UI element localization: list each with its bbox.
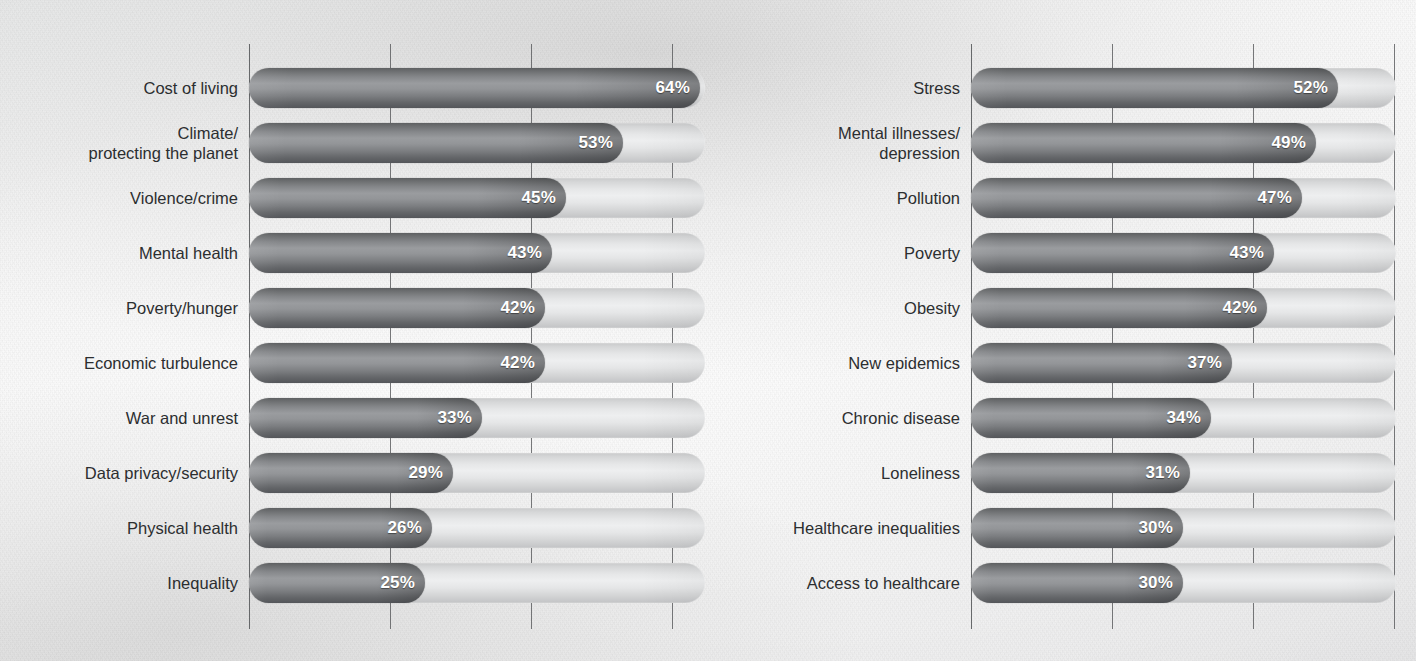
- bar-row: 30%: [971, 508, 1396, 548]
- category-label: Climate/ protecting the planet: [18, 123, 238, 163]
- category-label: Mental illnesses/ depression: [730, 123, 960, 163]
- bar-value-label: 64%: [648, 68, 690, 108]
- bar-row: 45%: [249, 178, 705, 218]
- bar-value-label: 47%: [1250, 178, 1292, 218]
- category-label: Physical health: [18, 518, 238, 538]
- bar-row: 64%: [249, 68, 705, 108]
- bar-value-label: 25%: [373, 563, 415, 603]
- bar-row: 42%: [249, 288, 705, 328]
- category-label: Healthcare inequalities: [730, 518, 960, 538]
- category-label: Poverty/hunger: [18, 298, 238, 318]
- bar-row: 34%: [971, 398, 1396, 438]
- bar-value-label: 26%: [380, 508, 422, 548]
- bar-value-label: 49%: [1264, 123, 1306, 163]
- bar-value-label: 29%: [401, 453, 443, 493]
- category-label: Data privacy/security: [18, 463, 238, 483]
- bar-fill: [249, 123, 623, 163]
- bar-value-label: 43%: [1222, 233, 1264, 273]
- bar-value-label: 42%: [493, 343, 535, 383]
- bar-row: 25%: [249, 563, 705, 603]
- category-label: Stress: [730, 78, 960, 98]
- bar-row: 42%: [971, 288, 1396, 328]
- category-label: Obesity: [730, 298, 960, 318]
- category-label: Chronic disease: [730, 408, 960, 428]
- bar-value-label: 30%: [1131, 508, 1173, 548]
- bar-value-label: 30%: [1131, 563, 1173, 603]
- category-label: Inequality: [18, 573, 238, 593]
- bar-row: 31%: [971, 453, 1396, 493]
- category-label: Loneliness: [730, 463, 960, 483]
- bar-value-label: 31%: [1138, 453, 1180, 493]
- bar-row: 26%: [249, 508, 705, 548]
- bar-value-label: 37%: [1180, 343, 1222, 383]
- category-label: New epidemics: [730, 353, 960, 373]
- category-label: Violence/crime: [18, 188, 238, 208]
- category-label: War and unrest: [18, 408, 238, 428]
- bar-row: 52%: [971, 68, 1396, 108]
- category-label: Access to healthcare: [730, 573, 960, 593]
- category-label: Pollution: [730, 188, 960, 208]
- category-label: Poverty: [730, 243, 960, 263]
- bar-value-label: 42%: [493, 288, 535, 328]
- bar-value-label: 45%: [514, 178, 556, 218]
- bar-value-label: 43%: [500, 233, 542, 273]
- bar-value-label: 33%: [430, 398, 472, 438]
- category-label: Mental health: [18, 243, 238, 263]
- bar-row: 43%: [249, 233, 705, 273]
- bar-row: 47%: [971, 178, 1396, 218]
- bar-fill: [971, 68, 1338, 108]
- bar-value-label: 34%: [1159, 398, 1201, 438]
- bar-row: 29%: [249, 453, 705, 493]
- bar-row: 53%: [249, 123, 705, 163]
- bar-row: 49%: [971, 123, 1396, 163]
- bar-value-label: 52%: [1286, 68, 1328, 108]
- cropped-header-text: [300, 0, 820, 11]
- bar-row: 37%: [971, 343, 1396, 383]
- category-label: Cost of living: [18, 78, 238, 98]
- bar-value-label: 53%: [571, 123, 613, 163]
- bar-row: 33%: [249, 398, 705, 438]
- bar-fill: [249, 68, 700, 108]
- bar-row: 30%: [971, 563, 1396, 603]
- category-label: Economic turbulence: [18, 353, 238, 373]
- bar-row: 42%: [249, 343, 705, 383]
- bar-value-label: 42%: [1215, 288, 1257, 328]
- bar-row: 43%: [971, 233, 1396, 273]
